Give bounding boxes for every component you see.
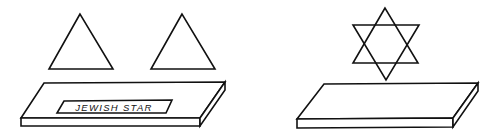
label-plate-text: JEWISH STAR bbox=[74, 102, 152, 113]
jewish-star-diagram: JEWISH STAR bbox=[0, 0, 495, 136]
platform-front-face bbox=[21, 118, 200, 126]
triangle-right bbox=[151, 14, 215, 69]
platform-front-face bbox=[297, 118, 453, 128]
right-panel bbox=[297, 8, 478, 128]
triangle-left bbox=[49, 14, 113, 69]
platform-top-face bbox=[297, 83, 478, 119]
star-upward-triangle bbox=[353, 8, 418, 63]
label-plate: JEWISH STAR bbox=[57, 100, 172, 113]
six-pointed-star bbox=[353, 8, 419, 80]
right-platform bbox=[297, 83, 478, 128]
star-downward-triangle bbox=[353, 25, 419, 80]
left-panel: JEWISH STAR bbox=[21, 14, 225, 126]
